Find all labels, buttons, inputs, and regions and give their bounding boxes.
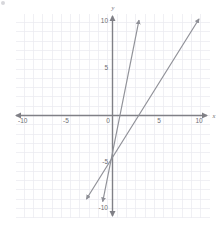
x-tick-neg5: -5 <box>63 117 69 124</box>
y-tick-neg10: -10 <box>99 204 109 211</box>
graph-svg: -10 -5 0 5 10 10 5 -5 -10 x y <box>0 0 223 227</box>
x-tick-pos5: 5 <box>157 117 161 124</box>
x-axis-label: x <box>212 112 216 119</box>
tick-labels: -10 -5 0 5 10 10 5 -5 -10 <box>18 17 203 211</box>
x-tick-pos10: 10 <box>195 117 203 124</box>
corner-mark-icon <box>1 1 5 5</box>
y-axis-label: y <box>111 4 115 11</box>
y-tick-neg5: -5 <box>102 158 108 165</box>
origin-label: 0 <box>106 117 110 124</box>
axes <box>16 16 207 216</box>
coordinate-plane-graph: -10 -5 0 5 10 10 5 -5 -10 x y <box>0 0 223 227</box>
x-tick-neg10: -10 <box>18 117 28 124</box>
y-tick-pos5: 5 <box>104 64 108 71</box>
y-tick-pos10: 10 <box>101 17 109 24</box>
